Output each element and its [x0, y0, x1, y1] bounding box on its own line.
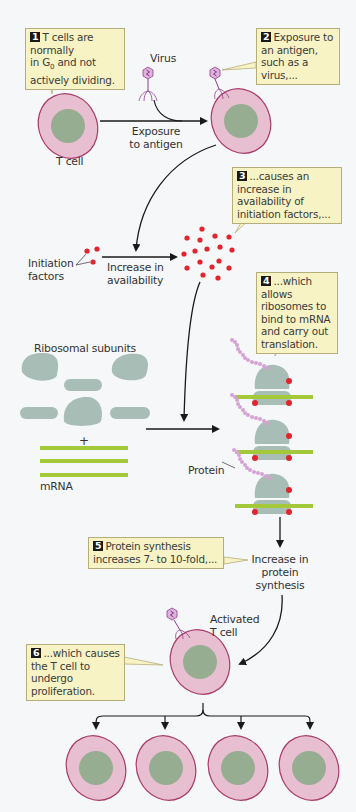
exposure-label: Exposureto antigen [124, 125, 188, 151]
daughter-cell-2 [126, 726, 206, 810]
increase-availability-label: Increase inavailability [107, 261, 164, 287]
initiation-factor-cluster [181, 226, 234, 280]
virus-label: Virus [150, 52, 176, 65]
ribosome-1 [235, 365, 313, 406]
plus-sign: + [79, 434, 89, 448]
callout-3: 3...causes an increase in availability o… [232, 167, 342, 224]
protein-label: Protein [188, 464, 224, 477]
callout-6: 6...which causes the T cell to undergo p… [26, 644, 125, 701]
callout-2: 2Exposure to an antigen, such as a virus… [256, 28, 340, 85]
daughter-cell-1 [56, 726, 136, 810]
ribosome-2 [235, 420, 313, 461]
mrna-label: mRNA [40, 480, 73, 493]
mrna-strands [40, 446, 128, 477]
ribosomal-subunits [20, 353, 150, 426]
initiation-factors-label: Initiationfactors [28, 257, 74, 283]
callout-5: 5Protein synthesis increases 7- to 10-fo… [88, 537, 224, 569]
infected-t-cell [201, 79, 281, 163]
step-number: 2 [261, 32, 271, 42]
ribosome-3 [235, 474, 313, 515]
step-number: 4 [261, 276, 271, 286]
daughter-cell-4 [269, 726, 349, 810]
step-number: 5 [93, 541, 103, 551]
callout-4: 4...which allows ribosomes to bind to mR… [256, 272, 338, 354]
increase-protein-synthesis-label: Increase inproteinsynthesis [248, 553, 312, 592]
step-number: 1 [30, 32, 40, 42]
virus-icon [139, 67, 157, 101]
step-number: 3 [237, 171, 247, 181]
ribosomal-subunits-label: Ribosomal subunits [34, 342, 136, 355]
callout-1: 1T cells are normally in G0 and not acti… [25, 28, 125, 90]
step-number: 6 [31, 648, 41, 658]
t-cell-label: T cell [56, 155, 83, 168]
activated-t-cell-label: ActivatedT cell [210, 613, 259, 639]
daughter-cell-3 [198, 726, 278, 810]
